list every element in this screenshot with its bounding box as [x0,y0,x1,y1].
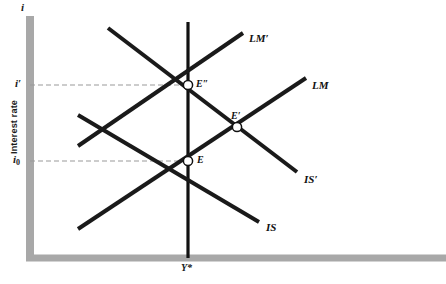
x-axis-label: Y* [181,263,192,273]
is-lm-figure: i Interest rate i′ i0 Y* LM′ LM IS′ IS E… [0,0,446,284]
equilibrium-point-e [183,156,192,165]
equilibrium-label-e-prime: E′ [231,111,240,121]
curve-label-lm: LM [312,80,329,91]
y-axis-top-label: i [21,2,24,13]
curve-is [78,115,259,222]
equilibrium-label-e: E [197,155,204,165]
curve-label-lm-prime: LM′ [249,33,269,44]
y-tick-label-i-prime: i′ [15,78,21,89]
curve-label-is-prime: IS′ [304,174,318,185]
equilibrium-point-e-prime [232,122,241,131]
y-tick-i-zero-subscript: 0 [16,158,20,167]
equilibrium-label-e-double-prime: E″ [196,79,208,89]
plot-canvas [0,0,446,284]
y-tick-label-i-zero: i0 [13,154,20,167]
curves-group [78,28,306,229]
curve-label-is: IS [266,222,276,233]
equilibrium-point-e-double-prime [183,80,192,89]
